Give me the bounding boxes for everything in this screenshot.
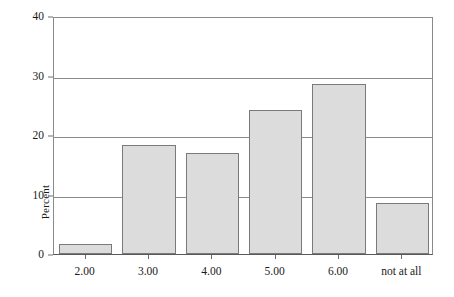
plot-area bbox=[53, 17, 433, 255]
x-tick-mark bbox=[85, 255, 86, 259]
x-tick-label: not at all bbox=[381, 266, 421, 278]
y-axis-tick-labels: 010203040 bbox=[24, 0, 44, 297]
x-tick-label: 6.00 bbox=[328, 266, 348, 278]
bar-chart: Percent 010203040 2.003.004.005.006.00no… bbox=[0, 0, 454, 297]
x-tick-label: 3.00 bbox=[138, 266, 158, 278]
bar bbox=[59, 244, 112, 254]
gridline bbox=[54, 78, 432, 79]
x-tick-label: 2.00 bbox=[75, 266, 95, 278]
gridline bbox=[54, 137, 432, 138]
y-tick-label: 0 bbox=[24, 249, 44, 261]
y-tick-label: 20 bbox=[24, 130, 44, 142]
bar bbox=[122, 145, 175, 254]
y-tick-label: 30 bbox=[24, 71, 44, 83]
y-tick-label: 40 bbox=[24, 11, 44, 23]
x-tick-mark bbox=[211, 255, 212, 259]
x-tick-label: 4.00 bbox=[201, 266, 221, 278]
y-tick-label: 10 bbox=[24, 190, 44, 202]
gridline bbox=[54, 197, 432, 198]
x-tick-label: 5.00 bbox=[265, 266, 285, 278]
x-tick-mark bbox=[338, 255, 339, 259]
bar bbox=[312, 84, 365, 254]
x-tick-mark bbox=[148, 255, 149, 259]
bar bbox=[376, 203, 429, 254]
bar bbox=[186, 153, 239, 254]
bar bbox=[249, 110, 302, 254]
x-tick-mark bbox=[275, 255, 276, 259]
x-tick-mark bbox=[401, 255, 402, 259]
